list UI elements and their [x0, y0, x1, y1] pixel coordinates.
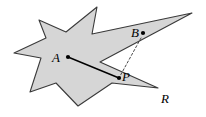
label-point-b: B — [131, 26, 139, 39]
point-marker-a — [66, 55, 70, 59]
figure-canvas: A B P R — [0, 0, 206, 117]
label-point-a: A — [52, 51, 60, 64]
geometry-diagram — [0, 0, 206, 117]
label-region-r: R — [161, 92, 169, 105]
label-point-p: P — [122, 70, 130, 83]
point-marker-p — [117, 76, 121, 80]
point-marker-b — [141, 31, 145, 35]
